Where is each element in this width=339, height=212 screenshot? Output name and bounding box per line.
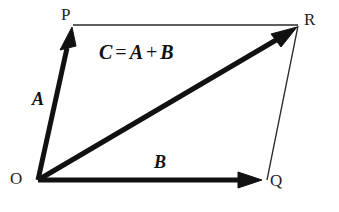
construction-line-QR — [267, 26, 298, 180]
vector-label-b: B — [154, 153, 166, 171]
vertex-label-o: O — [10, 170, 22, 187]
equation-equals-sign: = — [112, 41, 129, 63]
equation-term-c: C — [99, 41, 112, 63]
vertex-label-q: Q — [270, 172, 282, 189]
vertex-label-r: R — [304, 11, 315, 28]
vector-label-a: A — [32, 90, 44, 108]
equation-term-b: B — [160, 41, 173, 63]
vector-equation: C=A+B — [99, 42, 174, 62]
vector-addition-figure: P R O Q A B C=A+B — [0, 0, 339, 212]
vector-B-arrow — [38, 172, 262, 188]
vertex-label-p: P — [61, 6, 70, 23]
equation-term-a: A — [130, 41, 143, 63]
vector-diagram-canvas — [0, 0, 339, 212]
equation-plus-sign: + — [143, 41, 160, 63]
